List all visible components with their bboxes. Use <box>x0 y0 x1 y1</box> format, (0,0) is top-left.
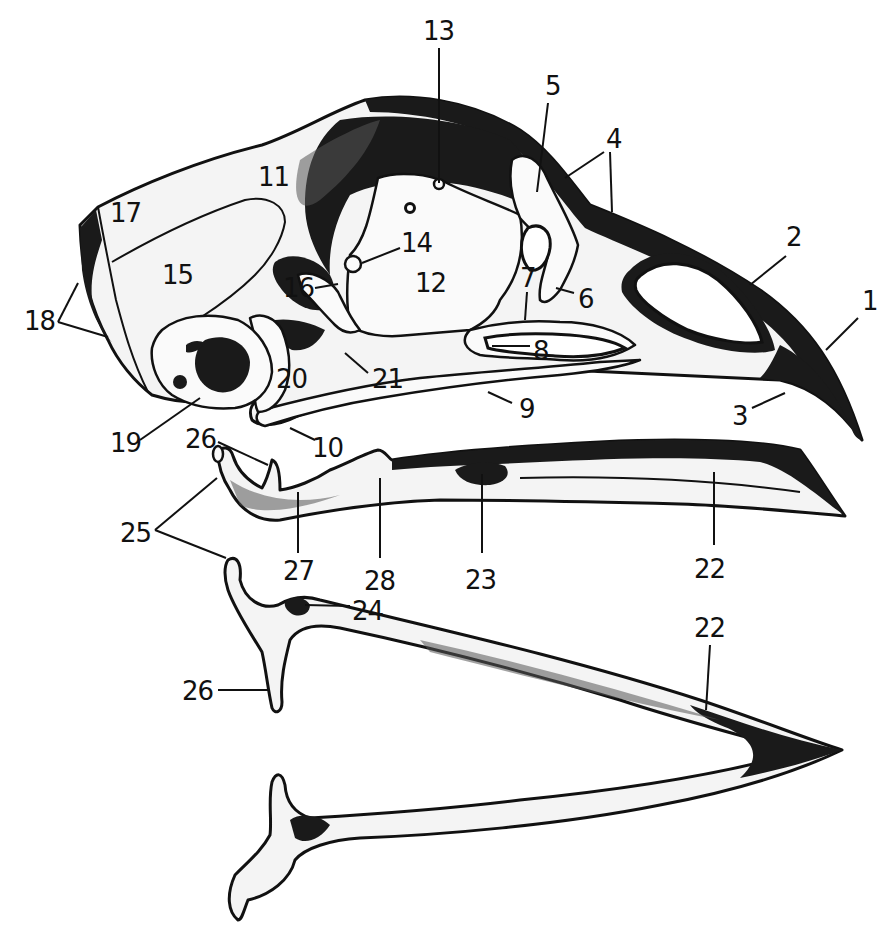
label-text-28: 28 <box>364 566 395 596</box>
label-text-11: 11 <box>258 162 289 192</box>
leader-line-3 <box>752 393 785 408</box>
label-3: 3 <box>732 393 785 431</box>
label-1: 1 <box>826 286 878 350</box>
label-text-22b: 22 <box>694 613 725 643</box>
bird-skull-diagram: 1234567891011121314151617181920212222232… <box>0 0 896 945</box>
label-10: 10 <box>290 428 343 463</box>
leader-line-22b <box>706 645 710 710</box>
label-text-26b: 26 <box>182 676 213 706</box>
label-text-1: 1 <box>862 286 878 316</box>
label-text-10: 10 <box>312 433 343 463</box>
label-text-23: 23 <box>465 565 496 595</box>
label-text-14: 14 <box>401 228 433 258</box>
label-17: 17 <box>110 198 141 228</box>
leader-line-18 <box>58 283 78 322</box>
foramen-magnum-dot <box>173 375 187 389</box>
optic-foramen <box>406 204 415 213</box>
label-text-3: 3 <box>732 401 748 431</box>
label-26b: 26 <box>182 676 268 706</box>
label-text-13: 13 <box>423 16 454 46</box>
label-text-21: 21 <box>372 364 403 394</box>
label-text-17: 17 <box>110 198 141 228</box>
label-text-9: 9 <box>519 394 535 424</box>
label-text-22: 22 <box>694 554 725 584</box>
leader-line-4 <box>610 152 612 212</box>
label-text-24: 24 <box>352 596 384 626</box>
foramen-14 <box>345 256 361 272</box>
skull-lateral-view <box>80 97 862 440</box>
label-25: 25 <box>120 478 226 558</box>
label-text-15: 15 <box>162 260 193 290</box>
label-11: 11 <box>258 162 289 192</box>
label-15: 15 <box>162 260 193 290</box>
leader-line-4 <box>565 152 604 178</box>
mandible-dorsal-view <box>225 558 842 920</box>
label-text-27: 27 <box>283 556 314 586</box>
label-text-19: 19 <box>110 428 141 458</box>
dorsal-stipple <box>420 640 720 720</box>
label-text-20: 20 <box>276 364 307 394</box>
label-2: 2 <box>750 222 802 285</box>
label-text-6: 6 <box>578 284 594 314</box>
label-text-8: 8 <box>533 336 549 366</box>
leader-line-9 <box>488 392 512 403</box>
label-text-5: 5 <box>545 71 561 101</box>
label-20: 20 <box>276 364 307 394</box>
label-22b: 22 <box>694 613 725 710</box>
label-12: 12 <box>415 268 446 298</box>
label-text-12: 12 <box>415 268 446 298</box>
leader-line-25 <box>155 530 226 558</box>
label-text-2: 2 <box>786 222 802 252</box>
label-text-18: 18 <box>24 306 55 336</box>
label-text-4: 4 <box>606 124 622 154</box>
label-text-25: 25 <box>120 518 151 548</box>
leader-line-1 <box>826 318 858 350</box>
label-text-7: 7 <box>520 263 536 293</box>
label-text-16: 16 <box>283 273 314 303</box>
label-text-26: 26 <box>185 424 216 454</box>
leader-line-2 <box>750 256 786 285</box>
leader-line-24 <box>305 605 350 606</box>
label-9: 9 <box>488 392 535 424</box>
mandible-lateral-view <box>213 440 845 520</box>
leader-line-25 <box>155 478 217 530</box>
